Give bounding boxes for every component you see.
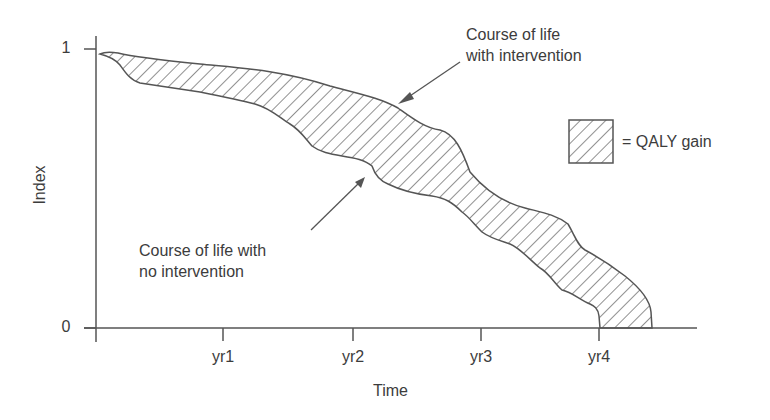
x-tick-label-yr3: yr3 [470,348,492,366]
y-tick-label-0: 0 [62,318,71,336]
annotation-with-intervention-line2: with intervention [466,45,582,66]
x-tick-label-yr4: yr4 [588,348,610,366]
arrow-no-intervention [311,177,365,230]
annotation-with-intervention-line1: Course of life [466,24,582,45]
x-tick-label-yr1: yr1 [212,348,234,366]
arrow-with-intervention [398,62,460,104]
x-axis-title: Time [373,382,408,400]
qaly-gain-region [100,52,652,328]
legend-label: = QALY gain [622,131,712,152]
y-axis-title: Index [31,165,49,204]
annotation-no-intervention: Course of life with no intervention [139,240,266,282]
legend-hatch-swatch [569,120,613,163]
annotation-no-intervention-line2: no intervention [139,261,266,282]
annotation-no-intervention-line1: Course of life with [139,240,266,261]
qaly-diagram [0,0,770,420]
y-tick-label-1: 1 [62,39,71,57]
annotation-with-intervention: Course of life with intervention [466,24,582,66]
x-tick-label-yr2: yr2 [342,348,364,366]
